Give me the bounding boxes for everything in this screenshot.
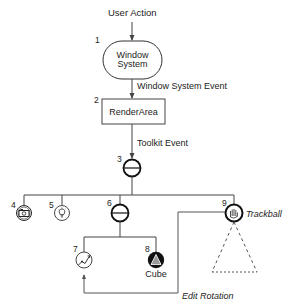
node-1-system-label: System: [103, 59, 162, 69]
node-7-number: 7: [73, 245, 78, 254]
diagram-canvas: [0, 0, 288, 304]
node-8-cube-shape-icon: [148, 252, 164, 268]
node-8-number: 8: [145, 245, 150, 254]
edge-window-system-to-renderarea: [130, 79, 135, 99]
node-2-number: 2: [94, 96, 99, 105]
edges-node-3-children: [24, 177, 234, 206]
cube-label: Cube: [140, 269, 172, 279]
toolkit-event-label: Toolkit Event: [137, 138, 188, 148]
node-4-camera-icon: [17, 206, 32, 221]
node-6-group-icon: [112, 205, 129, 222]
edge-renderarea-to-node-3: [130, 124, 135, 159]
trackball-label: Trackball: [246, 209, 282, 219]
user-action-label: User Action: [108, 8, 157, 18]
trackball-dragger-dashed-triangle: [212, 222, 257, 272]
node-5-number: 5: [49, 201, 54, 210]
node-7-rotation-icon: [76, 252, 92, 268]
node-6-number: 6: [107, 199, 112, 208]
window-system-event-label: Window System Event: [137, 81, 227, 91]
edit-rotation-label: Edit Rotation: [182, 291, 234, 301]
node-9-hand-icon: [226, 205, 243, 222]
edge-user-action-to-window-system: [130, 22, 135, 41]
node-9-number: 9: [222, 199, 227, 208]
node-3-group-icon: [124, 160, 141, 177]
node-2-renderarea-label: RenderArea: [102, 107, 165, 117]
node-4-number: 4: [11, 201, 16, 210]
node-3-number: 3: [117, 155, 122, 164]
node-5-lightbulb-icon: [55, 206, 70, 221]
node-1-number: 1: [95, 36, 100, 45]
